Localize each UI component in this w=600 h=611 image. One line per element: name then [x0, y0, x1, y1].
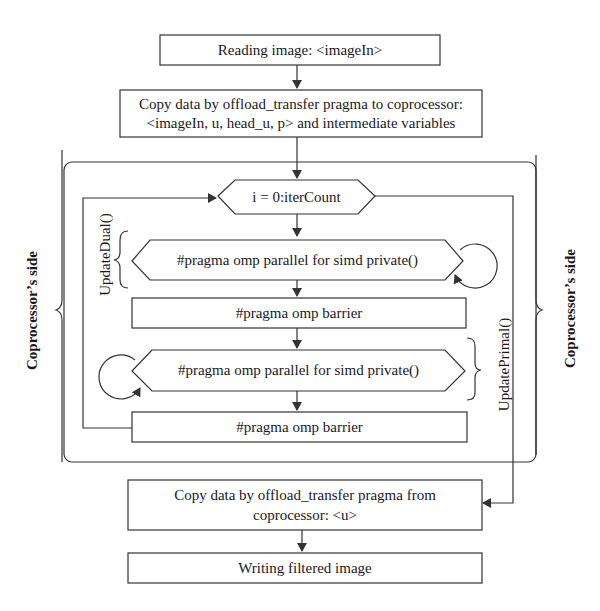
parallel-primal-label: #pragma omp parallel for simd private() — [132, 361, 465, 379]
coprocessor-right-brace — [536, 155, 542, 455]
copy-to-label-line1: Copy data by offload_transfer pragma to … — [120, 95, 482, 113]
parallel-dual-label: #pragma omp parallel for simd private() — [132, 251, 463, 269]
barrier-primal-label: #pragma omp barrier — [132, 418, 467, 436]
update-dual-label: UpdateDual() — [97, 200, 114, 310]
coprocessor-right-label: Coprocessor’s side — [562, 239, 579, 379]
copy-to-label-line2: <imageIn, u, head_u, p> and intermediate… — [120, 114, 482, 132]
barrier-dual-label: #pragma omp barrier — [132, 304, 466, 322]
read-image-label: Reading image: <imageIn> — [160, 41, 440, 59]
copy-from-label-line2: coprocessor: <u> — [128, 506, 482, 524]
copy-from-label-line1: Copy data by offload_transfer pragma fro… — [128, 486, 482, 504]
write-image-label: Writing filtered image — [128, 559, 482, 577]
update-primal-brace — [467, 338, 481, 400]
update-primal-label: UpdatePrimal() — [496, 305, 513, 425]
coprocessor-left-brace — [56, 150, 62, 462]
update-dual-brace — [114, 231, 128, 288]
coprocessor-left-label: Coprocessor’s side — [24, 241, 41, 381]
loop-label: i = 0:iterCount — [218, 188, 375, 206]
